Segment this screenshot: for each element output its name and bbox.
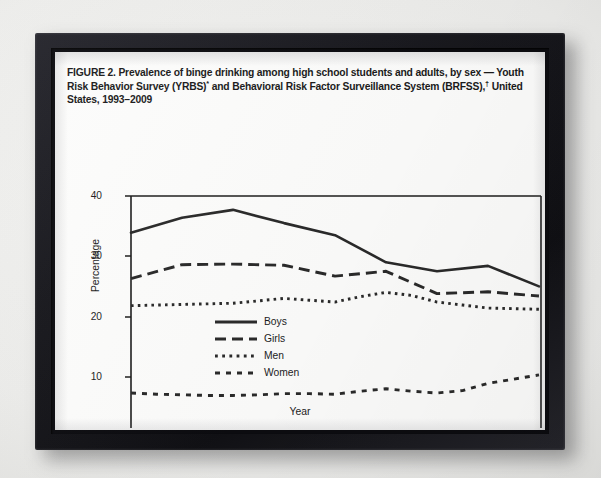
series-line-women [131,375,539,395]
series-line-men [131,292,539,309]
y-axis-ticks [125,196,131,428]
figure-title-line-3a: System (BRFSS), [404,81,485,92]
printed-page: FIGURE 2. Prevalence of binge drinking a… [55,52,545,430]
legend-swatches [215,322,257,373]
series-line-girls [131,264,539,296]
data-series-group [131,210,539,396]
figure-title-line-2b: and Behavioral Risk Factor Surveillance [209,81,401,92]
line-chart: Percentage Year 40 30 20 10 0 1993 1995 … [55,130,545,428]
axis-spines [131,196,541,428]
figure-title-line-1: FIGURE 2. Prevalence of binge drinking a… [67,67,462,78]
chart-svg [55,130,545,428]
figure-title: FIGURE 2. Prevalence of binge drinking a… [67,66,535,107]
